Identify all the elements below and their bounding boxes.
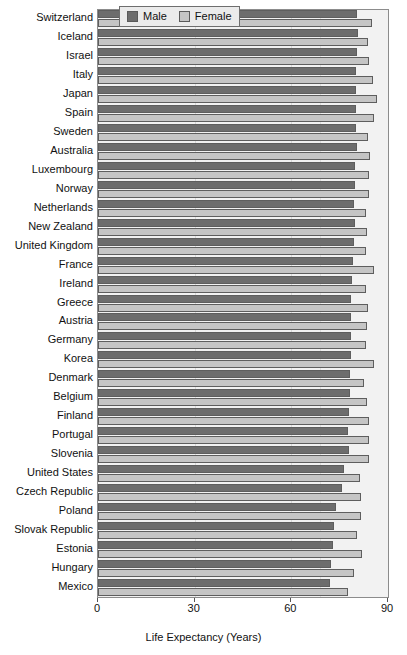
bar-female — [98, 417, 369, 425]
y-axis-label-czech-republic: Czech Republic — [16, 486, 93, 497]
y-axis-label-united-kingdom: United Kingdom — [15, 240, 93, 251]
y-axis-label-netherlands: Netherlands — [34, 202, 93, 213]
bar-female — [98, 247, 366, 255]
y-axis-label-belgium: Belgium — [53, 391, 93, 402]
bar-male — [98, 86, 356, 94]
bar-female — [98, 455, 369, 463]
y-axis-label-italy: Italy — [73, 69, 93, 80]
bar-male — [98, 560, 331, 568]
y-axis-category-labels: SwitzerlandIcelandIsraelItalyJapanSpainS… — [0, 9, 93, 598]
y-axis-label-hungary: Hungary — [51, 562, 93, 573]
x-tick-label: 0 — [94, 603, 100, 614]
plot-area — [97, 9, 389, 598]
bar-male — [98, 313, 351, 321]
y-axis-label-ireland: Ireland — [59, 278, 93, 289]
y-axis-label-greece: Greece — [57, 297, 93, 308]
life-expectancy-bar-chart: Male Female SwitzerlandIcelandIsraelItal… — [0, 0, 407, 655]
bar-female — [98, 304, 368, 312]
y-axis-label-portugal: Portugal — [52, 429, 93, 440]
legend-swatch-male-icon — [127, 11, 138, 22]
bar-female — [98, 38, 368, 46]
y-axis-label-united-states: United States — [27, 467, 93, 478]
y-axis-label-slovak-republic: Slovak Republic — [14, 524, 93, 535]
bar-male — [98, 351, 351, 359]
bar-female — [98, 493, 361, 501]
y-axis-label-sweden: Sweden — [53, 126, 93, 137]
bar-male — [98, 257, 353, 265]
bar-female — [98, 379, 364, 387]
x-tick-label: 30 — [188, 603, 200, 614]
y-axis-label-korea: Korea — [64, 353, 93, 364]
y-axis-label-estonia: Estonia — [56, 543, 93, 554]
chart-legend: Male Female — [119, 6, 240, 27]
bar-male — [98, 370, 350, 378]
bar-male — [98, 219, 355, 227]
x-axis: 0306090 — [97, 598, 389, 628]
y-axis-label-luxembourg: Luxembourg — [32, 164, 93, 175]
y-axis-label-germany: Germany — [48, 334, 93, 345]
y-axis-label-iceland: Iceland — [58, 31, 93, 42]
bar-female — [98, 588, 348, 596]
x-axis-title: Life Expectancy (Years) — [0, 631, 407, 643]
bar-female — [98, 228, 367, 236]
bar-male — [98, 465, 344, 473]
y-axis-label-finland: Finland — [57, 410, 93, 421]
bar-male — [98, 332, 351, 340]
bar-female — [98, 436, 369, 444]
y-axis-label-japan: Japan — [63, 88, 93, 99]
bar-male — [98, 408, 349, 416]
bar-female — [98, 569, 354, 577]
y-axis-label-poland: Poland — [59, 505, 93, 516]
legend-entry-female: Female — [179, 11, 232, 22]
bar-female — [98, 474, 360, 482]
bar-female — [98, 398, 367, 406]
y-axis-label-new-zealand: New Zealand — [28, 221, 93, 232]
bar-female — [98, 76, 373, 84]
bar-male — [98, 238, 354, 246]
bar-male — [98, 200, 354, 208]
bar-male — [98, 579, 330, 587]
y-axis-label-switzerland: Switzerland — [36, 12, 93, 23]
y-axis-label-spain: Spain — [65, 107, 93, 118]
y-axis-label-france: France — [59, 259, 93, 270]
bar-female — [98, 171, 369, 179]
plot-inner — [98, 10, 388, 597]
bar-male — [98, 67, 356, 75]
bar-male — [98, 446, 349, 454]
bar-male — [98, 503, 336, 511]
bar-female — [98, 95, 377, 103]
bar-male — [98, 484, 342, 492]
bar-female — [98, 550, 362, 558]
x-tick-label: 60 — [284, 603, 296, 614]
bar-male — [98, 162, 355, 170]
bar-female — [98, 360, 374, 368]
bar-female — [98, 209, 366, 217]
bar-male — [98, 124, 356, 132]
bar-female — [98, 285, 366, 293]
legend-swatch-female-icon — [179, 11, 190, 22]
bar-male — [98, 389, 350, 397]
bar-male — [98, 427, 348, 435]
bar-female — [98, 114, 374, 122]
legend-label-male: Male — [143, 11, 167, 22]
y-axis-label-austria: Austria — [59, 315, 93, 326]
bar-male — [98, 29, 358, 37]
x-tick-label: 90 — [381, 603, 393, 614]
legend-label-female: Female — [195, 11, 232, 22]
bar-female — [98, 322, 367, 330]
y-axis-label-slovenia: Slovenia — [51, 448, 93, 459]
bar-male — [98, 143, 357, 151]
y-axis-label-israel: Israel — [66, 50, 93, 61]
bar-female — [98, 152, 370, 160]
legend-entry-male: Male — [127, 11, 167, 22]
bar-male — [98, 105, 356, 113]
y-axis-label-norway: Norway — [56, 183, 93, 194]
bar-female — [98, 266, 374, 274]
y-axis-label-australia: Australia — [50, 145, 93, 156]
y-axis-label-mexico: Mexico — [58, 581, 93, 592]
bar-male — [98, 295, 351, 303]
bar-female — [98, 190, 369, 198]
bar-male — [98, 522, 334, 530]
bar-male — [98, 181, 355, 189]
bar-male — [98, 541, 333, 549]
